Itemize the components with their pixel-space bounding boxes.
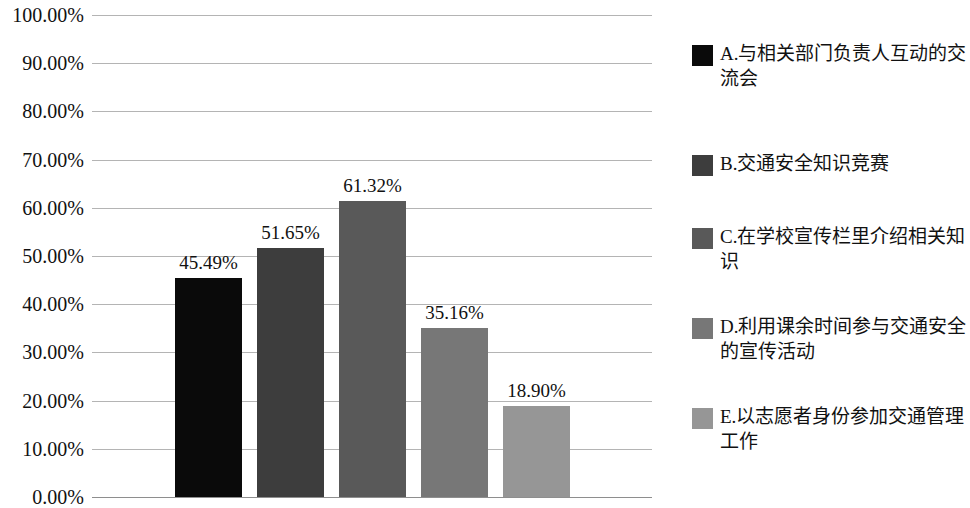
- legend-item-label: E.以志愿者身份参加交通管理工作: [720, 404, 968, 454]
- y-axis-tick-label: 80.00%: [0, 101, 84, 121]
- gridline: [92, 15, 652, 16]
- legend-item-label: A.与相关部门负责人互动的交流会: [720, 41, 968, 91]
- gridline: [92, 160, 652, 161]
- plot-area: 45.49%51.65%61.32%35.16%18.90%: [92, 15, 652, 497]
- legend-swatch-icon: [692, 155, 713, 176]
- y-axis-tick-label: 50.00%: [0, 246, 84, 266]
- bar-b[interactable]: [257, 248, 324, 497]
- legend-swatch-icon: [692, 318, 713, 339]
- y-axis-tick-label: 100.00%: [0, 5, 84, 25]
- bar-value-label: 18.90%: [493, 381, 580, 400]
- bar-d[interactable]: [421, 328, 488, 497]
- gridline: [92, 497, 652, 498]
- legend-swatch-icon: [692, 228, 713, 249]
- legend-swatch-icon: [692, 45, 713, 66]
- legend-item-label: C.在学校宣传栏里介绍相关知识: [720, 224, 968, 274]
- y-axis-tick-label: 30.00%: [0, 342, 84, 362]
- legend-swatch-icon: [692, 408, 713, 429]
- y-axis-tick-label: 0.00%: [0, 487, 84, 507]
- legend-item-label: B.交通安全知识竞赛: [720, 151, 968, 176]
- legend-item-label: D.利用课余时间参与交通安全的宣传活动: [720, 314, 968, 364]
- bar-value-label: 45.49%: [165, 253, 252, 272]
- y-axis-tick-label: 70.00%: [0, 150, 84, 170]
- bar-value-label: 35.16%: [411, 303, 498, 322]
- y-axis-tick-label: 20.00%: [0, 391, 84, 411]
- chart-legend: A.与相关部门负责人互动的交流会B.交通安全知识竞赛C.在学校宣传栏里介绍相关知…: [690, 0, 970, 508]
- y-axis-tick-label: 60.00%: [0, 198, 84, 218]
- bar-e[interactable]: [503, 406, 570, 497]
- bar-value-label: 51.65%: [247, 223, 334, 242]
- y-axis-tick-label: 10.00%: [0, 439, 84, 459]
- bar-a[interactable]: [175, 278, 242, 497]
- bar-chart: 100.00%90.00%80.00%70.00%60.00%50.00%40.…: [0, 0, 970, 508]
- y-axis-tick-label: 90.00%: [0, 53, 84, 73]
- bar-c[interactable]: [339, 201, 406, 497]
- gridline: [92, 63, 652, 64]
- y-axis-tick-label: 40.00%: [0, 294, 84, 314]
- bar-value-label: 61.32%: [329, 176, 416, 195]
- gridline: [92, 111, 652, 112]
